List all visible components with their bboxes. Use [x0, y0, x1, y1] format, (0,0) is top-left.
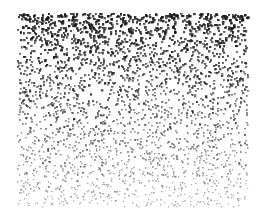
stipple-gradient-artwork: [0, 0, 260, 219]
